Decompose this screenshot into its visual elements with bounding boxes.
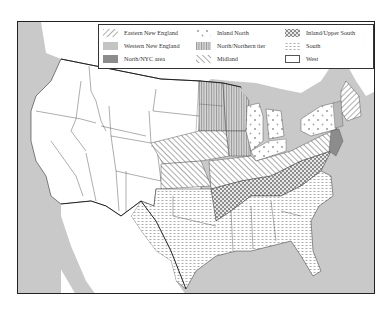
legend-item-north-northern-tier: North/Northern tier bbox=[196, 40, 265, 51]
legend-item-inland-north: Inland North bbox=[196, 27, 249, 38]
region-inland-north-michigan bbox=[266, 109, 284, 139]
legend-item-west: West bbox=[285, 53, 318, 64]
legend-item-midland: Midland bbox=[196, 53, 238, 64]
legend-item-eastern-new-england: Eastern New England bbox=[103, 27, 178, 38]
map-legend: Eastern New England Western New England … bbox=[98, 24, 374, 69]
legend-item-western-new-england: Western New England bbox=[103, 40, 180, 51]
legend-item-inland-upper-south: Inland/Upper South bbox=[285, 27, 355, 38]
legend-item-south: South bbox=[285, 40, 320, 51]
legend-item-north-nyc: North/NYC area bbox=[103, 53, 165, 64]
